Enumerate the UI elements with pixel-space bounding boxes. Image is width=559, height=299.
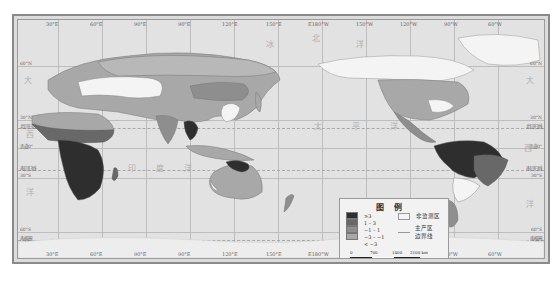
- legend-label: 主产区: [415, 224, 433, 232]
- map-frame: 30°E 60°E 90°E 90°E 120°E 150°E E180°W 1…: [12, 14, 550, 264]
- ocean-label: 太: [314, 120, 322, 131]
- legend-swatch: [398, 213, 410, 220]
- legend-label: −1 – 1: [364, 227, 380, 233]
- legend-swatch: [346, 233, 358, 240]
- ocean-label: 洋: [526, 198, 534, 209]
- legend-item: 1 – 3: [346, 219, 376, 226]
- scale-tick: 1400: [392, 250, 402, 255]
- legend-label: 1 – 3: [364, 220, 376, 226]
- lon-tick-bottom: E180°W: [308, 251, 329, 257]
- lon-tick-bottom: 120°E: [222, 251, 238, 257]
- ocean-label: 北: [312, 32, 320, 43]
- legend-label: −3 – −1: [364, 234, 384, 240]
- ocean-label: 大: [24, 74, 32, 85]
- scale-bar-segment: [372, 257, 394, 259]
- lat-label-left: 南回归线: [20, 165, 36, 171]
- map-canvas: 30°E 60°E 90°E 90°E 120°E 150°E E180°W 1…: [17, 19, 545, 259]
- lat-label-left: 南极圈: [20, 235, 32, 241]
- lat-label-left: 60°S: [20, 227, 31, 232]
- boundary-labels: 主产区 边界线: [415, 224, 433, 240]
- lon-tick-bottom: 90°E: [134, 251, 147, 257]
- lon-tick-top: 150°E: [266, 21, 282, 27]
- lon-tick-top: 90°W: [444, 21, 458, 27]
- ocean-label: 印: [128, 162, 136, 173]
- lon-tick-top: 150°W: [356, 21, 373, 27]
- legend-label: ≥3: [364, 213, 371, 219]
- scale-tick: 700: [370, 250, 378, 255]
- lat-label-right: 南回归线: [526, 165, 542, 171]
- lat-label-left: 30°S: [20, 173, 31, 178]
- legend-swatch: [346, 226, 358, 233]
- lon-tick-top: 60°W: [488, 21, 502, 27]
- lon-tick-top: 60°E: [90, 21, 103, 27]
- ocean-label: 度: [156, 162, 164, 173]
- lon-tick-top: 120°E: [222, 21, 238, 27]
- lat-label-right: 南极圈: [530, 235, 542, 241]
- lon-tick-bottom: 90°E: [178, 251, 191, 257]
- legend-item: −1 – 1: [346, 226, 380, 233]
- world-map-shapes: [18, 20, 544, 258]
- lat-label-right: 30°N: [530, 115, 542, 120]
- lon-tick-bottom: 30°E: [46, 251, 59, 257]
- ocean-label: 洋: [390, 120, 398, 131]
- legend-label: 边界线: [415, 232, 433, 240]
- legend-title: 图例: [340, 201, 448, 212]
- lon-tick-bottom: 60°W: [488, 251, 502, 257]
- legend-label: 非监测区: [416, 212, 440, 220]
- lon-tick-bottom: 150°E: [266, 251, 282, 257]
- scale-tick: 2100 km: [410, 250, 428, 255]
- legend-item: < −3: [346, 240, 377, 247]
- lon-tick-top: E180°W: [308, 21, 329, 27]
- lon-tick-top: 90°E: [134, 21, 147, 27]
- lat-label-right: 30°S: [531, 173, 542, 178]
- legend-item-unmonitored: 非监测区: [398, 212, 440, 220]
- lat-label-right: 60°S: [531, 227, 542, 232]
- ocean-label: 洋: [26, 186, 34, 197]
- legend-swatch: [346, 212, 358, 219]
- ocean-label: 西: [26, 128, 34, 139]
- lon-tick-top: 90°E: [178, 21, 191, 27]
- lon-tick-bottom: 60°E: [90, 251, 103, 257]
- ocean-label: 冰: [266, 38, 274, 49]
- lat-label-left: 60°N: [20, 61, 32, 66]
- legend-item-boundary: 主产区 边界线: [398, 224, 433, 240]
- legend-swatch: [346, 240, 358, 247]
- legend-swatch: [346, 219, 358, 226]
- lon-tick-top: 120°W: [400, 21, 417, 27]
- lat-label-right: 北回归线: [526, 123, 542, 129]
- ocean-label: 洋: [356, 38, 364, 49]
- legend-item: −3 – −1: [346, 233, 384, 240]
- boundary-line-symbol: [398, 232, 410, 233]
- map-legend: 图例 ≥3 1 – 3 −1 – 1 −3 – −1 < −3: [339, 198, 449, 259]
- scale-bar-line: [350, 257, 420, 259]
- ocean-label: 洋: [184, 162, 192, 173]
- lat-label-left: 30°N: [20, 115, 32, 120]
- scale-tick: 0: [350, 250, 353, 255]
- lat-label-left: 赤道0°: [20, 143, 33, 149]
- legend-item: ≥3: [346, 212, 371, 219]
- ocean-label: 大: [526, 74, 534, 85]
- lat-label-right: 60°N: [530, 61, 542, 66]
- lon-tick-top: 30°E: [46, 21, 59, 27]
- legend-label: < −3: [364, 241, 377, 247]
- ocean-label: 西: [524, 142, 532, 153]
- ocean-label: 平: [352, 120, 360, 131]
